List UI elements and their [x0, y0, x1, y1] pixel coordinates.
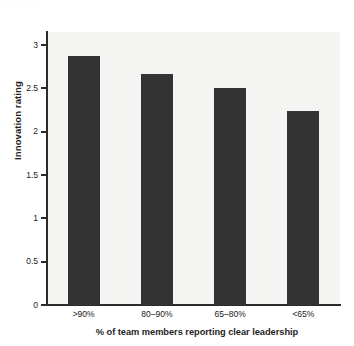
y-axis-tick — [41, 217, 48, 219]
bar-chart-figure: Innovation rating 00.511.522.53 >90%80–9… — [0, 0, 354, 346]
y-axis-line — [46, 31, 48, 306]
x-axis-title: % of team members reporting clear leader… — [47, 327, 347, 337]
y-axis-title: Innovation rating — [12, 61, 23, 181]
x-axis-tick-label: 80–90% — [120, 309, 194, 319]
x-axis-tick-label: <65% — [266, 309, 340, 319]
bar-6580 — [214, 88, 246, 305]
y-axis-tick — [41, 174, 48, 176]
y-axis-tick-label: 0.5 — [0, 257, 38, 265]
y-axis-tick-label: 2.5 — [0, 84, 38, 92]
y-axis-tick-label: 2 — [0, 127, 38, 135]
y-axis-tick — [41, 87, 48, 89]
bar-90 — [68, 56, 100, 305]
bar-65 — [287, 111, 319, 305]
y-axis-tick — [41, 44, 48, 46]
y-axis-tick — [41, 304, 48, 306]
y-axis-tick — [41, 131, 48, 133]
y-axis-tick — [41, 261, 48, 263]
y-axis-tick-label: 3 — [0, 41, 38, 49]
bar-8090 — [141, 74, 173, 305]
x-axis-tick-label: >90% — [47, 309, 121, 319]
y-axis-tick-label: 1 — [0, 214, 38, 222]
y-axis-tick-label: 0 — [0, 301, 38, 309]
x-axis-tick-label: 65–80% — [193, 309, 267, 319]
y-axis-tick-label: 1.5 — [0, 171, 38, 179]
